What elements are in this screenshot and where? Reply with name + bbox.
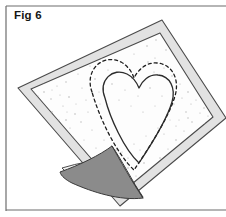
figure-caption: Fig 6 [14, 10, 42, 22]
figure-panel: Fig 6 [0, 0, 226, 217]
figure-illustration [0, 0, 226, 217]
